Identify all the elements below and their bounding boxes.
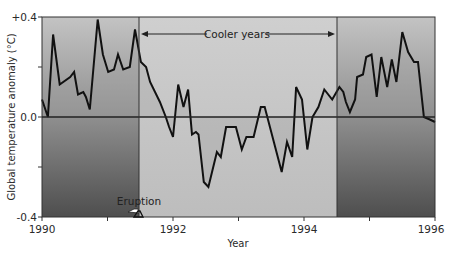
x-tick-1996: 1996 [418,223,445,235]
x-tick-1994: 1994 [291,223,318,235]
y-axis-title: Global temperature anomaly (°C) [6,33,17,200]
chart: +0.4 0.0 -0.4 1990 1992 1994 1996 Year G… [0,0,453,254]
y-tick-bottom: -0.4 [17,211,38,223]
y-axis [38,17,42,217]
cooler-years-label: Cooler years [204,28,270,40]
x-tick-1992: 1992 [160,223,187,235]
x-axis-title: Year [226,238,249,249]
x-axis [42,217,435,221]
y-tick-zero: 0.0 [20,111,37,123]
x-tick-1990: 1990 [29,223,56,235]
eruption-label: Eruption [117,195,161,207]
y-tick-top: +0.4 [12,11,38,23]
